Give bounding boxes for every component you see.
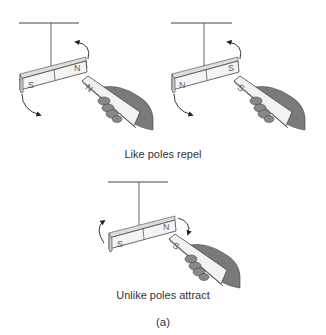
pole-label-S: S	[28, 80, 34, 90]
suspended-magnet: S N	[20, 57, 87, 93]
suspended-magnet: S N	[109, 216, 176, 252]
caption-like-poles-repel: Like poles repel	[0, 148, 326, 160]
panel-unlike-poles: S N S	[99, 182, 240, 288]
rotation-arrow-icon	[178, 218, 189, 234]
pole-label-S: S	[228, 63, 234, 73]
hand-with-magnet: S	[234, 76, 305, 130]
pole-label-N: N	[179, 80, 186, 90]
suspended-magnet: N S	[172, 57, 239, 93]
rotation-arrow-icon	[228, 42, 241, 59]
hand-with-magnet: S	[169, 234, 240, 288]
caption-unlike-poles-attract: Unlike poles attract	[0, 289, 326, 301]
pole-label-S: S	[117, 239, 123, 249]
rotation-arrow-icon	[76, 42, 89, 59]
pole-label-N: N	[163, 222, 170, 232]
panel-like-poles-2: N S S	[171, 23, 305, 130]
panel-like-poles-1: S N N	[19, 23, 153, 130]
pole-label-N: N	[74, 63, 81, 73]
hand-with-magnet: N	[82, 76, 153, 130]
rotation-arrow-icon	[174, 94, 192, 115]
figure-label: (a)	[0, 316, 326, 328]
rotation-arrow-icon	[99, 221, 104, 243]
magnet-figure: S N N N S	[0, 0, 326, 335]
rotation-arrow-icon	[22, 94, 40, 115]
